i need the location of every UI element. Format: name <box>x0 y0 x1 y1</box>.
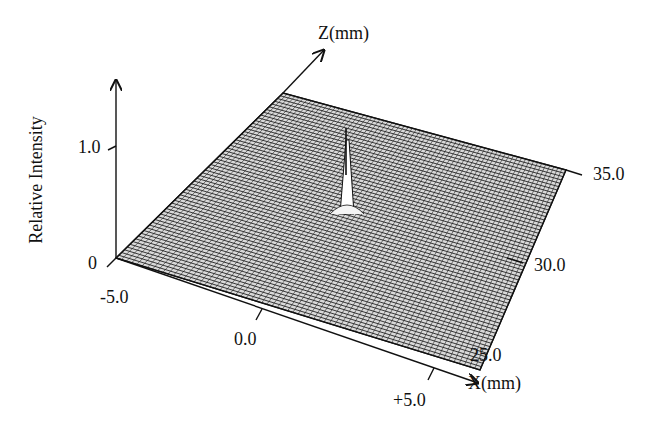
z-axis-label: Z(mm) <box>318 24 369 42</box>
z-tick-label-30: 30.0 <box>534 256 566 274</box>
z-axis <box>283 50 324 93</box>
x-tick-label-neg: -5.0 <box>100 288 129 306</box>
x-tick-pos <box>428 368 434 380</box>
x-tick-mid <box>256 309 262 320</box>
z-tick-label-35: 35.0 <box>593 165 625 183</box>
z-tick-label-25: 25.0 <box>470 346 502 364</box>
intensity-tick-0 <box>107 258 116 267</box>
x-tick-label-mid: 0.0 <box>234 330 257 348</box>
y-tick-label-1: 1.0 <box>78 138 101 156</box>
surface-plot <box>0 0 670 431</box>
intensity-tick-1 <box>108 146 116 150</box>
y-tick-label-0: 0 <box>88 254 97 272</box>
mesh-surface <box>116 93 566 370</box>
z-tick-35 <box>566 170 582 175</box>
x-axis-label: X(mm) <box>468 374 521 392</box>
x-tick-label-pos: +5.0 <box>393 391 426 409</box>
y-axis-label: Relative Intensity <box>26 116 47 243</box>
